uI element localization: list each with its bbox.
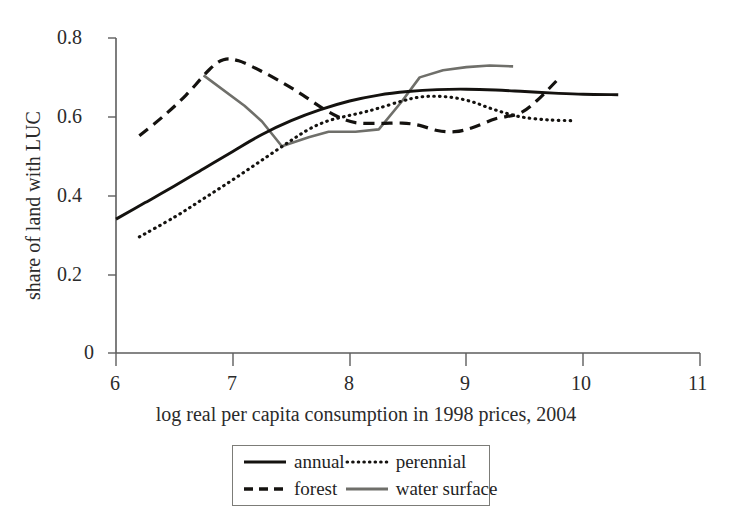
series-line-annual bbox=[116, 89, 618, 219]
y-tick-label-0.2: 0.2 bbox=[57, 263, 82, 286]
y-tick-label-0.4: 0.4 bbox=[57, 184, 82, 207]
series-line-water-surface bbox=[204, 66, 514, 147]
x-tick-label-8: 8 bbox=[344, 372, 354, 395]
y-tick-label-0.6: 0.6 bbox=[57, 105, 82, 128]
legend-label-forest: forest bbox=[294, 478, 337, 500]
y-axis-title: share of land with LUC bbox=[22, 111, 45, 300]
chart-figure: 0.8 0.6 0.4 0.2 0 6 7 8 9 10 11 share of… bbox=[0, 0, 732, 529]
gray-line-swatch bbox=[345, 482, 389, 496]
legend-entry-forest: forest bbox=[243, 478, 345, 500]
solid-line-swatch bbox=[243, 455, 287, 469]
y-tick-label-0: 0 bbox=[84, 341, 94, 364]
dotted-line-swatch bbox=[345, 455, 389, 469]
legend-entry-water-surface: water surface bbox=[345, 478, 498, 500]
legend-entry-annual: annual bbox=[243, 451, 345, 473]
y-axis-ticks bbox=[108, 38, 116, 353]
x-tick-label-9: 9 bbox=[460, 372, 470, 395]
legend-entry-perennial: perennial bbox=[345, 451, 498, 473]
x-axis-ticks bbox=[116, 353, 700, 366]
legend-label-annual: annual bbox=[294, 451, 345, 473]
x-tick-label-6: 6 bbox=[110, 372, 120, 395]
legend: annual perennial forest water surface bbox=[232, 445, 490, 506]
legend-label-perennial: perennial bbox=[396, 451, 467, 473]
x-tick-label-7: 7 bbox=[227, 372, 237, 395]
dashed-line-swatch bbox=[243, 482, 287, 496]
y-tick-label-0.8: 0.8 bbox=[57, 26, 82, 49]
x-tick-label-11: 11 bbox=[688, 372, 707, 395]
x-tick-label-10: 10 bbox=[571, 372, 591, 395]
legend-label-water-surface: water surface bbox=[396, 478, 498, 500]
x-axis-title: log real per capita consumption in 1998 … bbox=[0, 403, 732, 426]
series-line-forest bbox=[139, 59, 559, 136]
